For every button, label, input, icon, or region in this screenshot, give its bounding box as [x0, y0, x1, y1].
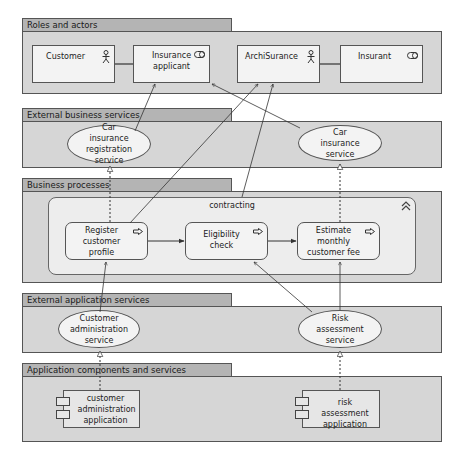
- service-customer-administration[interactable]: Customer administration service: [58, 310, 140, 348]
- role-insurance-applicant[interactable]: Insurance applicant: [133, 45, 210, 83]
- role-insurance-applicant-label: Insurance applicant: [148, 50, 195, 72]
- role-archisurance-label: ArchiSurance: [238, 51, 305, 62]
- service-car-insurance[interactable]: Car insurance service: [298, 125, 382, 161]
- role-icon: [407, 52, 419, 59]
- component-customer-administration-label: customer administration application: [78, 393, 134, 426]
- component-icon: [295, 397, 309, 421]
- role-insurant[interactable]: Insurant: [340, 45, 423, 83]
- process-arrow-icon: [253, 228, 263, 235]
- service-car-insurance-label: Car insurance service: [317, 127, 363, 160]
- process-estimate-monthly-customer-fee[interactable]: Estimate monthly customer fee: [297, 222, 380, 260]
- group-tab-external-business-services: External business services: [22, 108, 232, 122]
- process-register-label: Register customer profile: [78, 225, 126, 258]
- group-tab-business-processes: Business processes: [22, 178, 232, 192]
- service-risk-assessment-label: Risk assessment service: [315, 313, 365, 346]
- role-archisurance[interactable]: ArchiSurance: [237, 45, 320, 83]
- collapse-chevron-icon[interactable]: [401, 201, 411, 211]
- process-arrow-icon: [365, 228, 375, 235]
- process-eligibility-check[interactable]: Eligibility check: [185, 222, 268, 260]
- actor-icon: [307, 50, 315, 64]
- component-risk-assessment-label: risk assessment application: [313, 397, 377, 430]
- actor-icon: [102, 50, 110, 64]
- process-contracting-label: contracting: [49, 201, 415, 210]
- process-estimate-label: Estimate monthly customer fee: [304, 225, 364, 258]
- process-eligibility-label: Eligibility check: [199, 229, 245, 251]
- service-car-insurance-registration-label: Car insurance registration service: [82, 122, 136, 166]
- process-register-customer-profile[interactable]: Register customer profile: [65, 222, 148, 260]
- service-car-insurance-registration[interactable]: Car insurance registration service: [67, 125, 151, 163]
- component-customer-administration-application[interactable]: customer administration application: [63, 390, 140, 428]
- component-icon: [56, 397, 70, 421]
- service-customer-administration-label: Customer administration service: [69, 313, 129, 346]
- service-risk-assessment[interactable]: Risk assessment service: [298, 310, 382, 348]
- role-customer-label: Customer: [33, 51, 98, 62]
- group-tab-application-components: Application components and services: [22, 363, 232, 377]
- process-arrow-icon: [133, 228, 143, 235]
- group-tab-external-application-services: External application services: [22, 293, 232, 307]
- group-tab-roles: Roles and actors: [22, 18, 232, 32]
- role-insurant-label: Insurant: [341, 51, 408, 62]
- role-customer[interactable]: Customer: [32, 45, 115, 83]
- component-risk-assessment-application[interactable]: risk assessment application: [302, 390, 380, 428]
- role-icon: [194, 51, 206, 58]
